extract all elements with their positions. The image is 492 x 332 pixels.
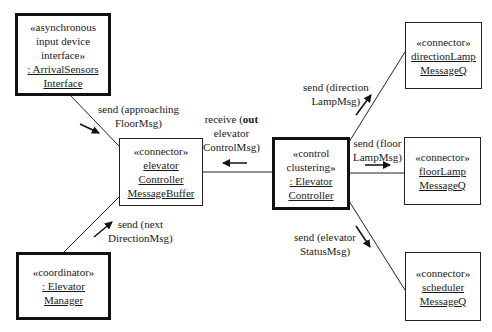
arrow-status	[356, 226, 370, 247]
object-name: Controller	[138, 172, 183, 186]
message-elevator-status: send (elevator StatusMsg)	[294, 230, 356, 258]
object-name: Manager	[44, 293, 83, 307]
object-name: floorLamp	[419, 164, 466, 178]
message-text: send (approaching	[98, 102, 179, 116]
stereotype: «asynchronous	[30, 20, 96, 34]
stereotype: «coordinator»	[33, 265, 95, 279]
stereotype: «connector»	[416, 266, 470, 280]
message-text: ControlMsg)	[203, 140, 260, 154]
message-text: elevator	[203, 126, 260, 140]
message-text: LampMsg)	[353, 150, 402, 164]
message-text: StatusMsg)	[294, 244, 356, 258]
direction-lamp-messageq-object[interactable]: «connector» directionLamp MessageQ	[405, 22, 482, 89]
message-approaching-floor: send (approaching FloorMsg)	[98, 102, 179, 130]
arrow-approaching	[80, 124, 99, 133]
stereotype: clustering»	[287, 160, 336, 174]
object-name: : ArrivalSensors	[27, 62, 98, 76]
message-floor-lamp: send (floor LampMsg)	[353, 136, 402, 164]
object-name: Interface	[43, 76, 82, 90]
stereotype: «connector»	[416, 35, 470, 49]
stereotype: «control	[293, 146, 330, 160]
object-name: MessageQ	[420, 294, 466, 308]
object-name: MessageQ	[420, 63, 466, 77]
message-text: LampMsg)	[303, 94, 369, 108]
message-receive-control: receive (out elevator ControlMsg)	[203, 112, 260, 154]
scheduler-messageq-object[interactable]: «connector» scheduler MessageQ	[405, 252, 481, 321]
object-name: MessageBuffer	[128, 186, 195, 200]
message-text: send (elevator	[294, 230, 356, 244]
floor-lamp-messageq-object[interactable]: «connector» floorLamp MessageQ	[404, 137, 481, 205]
message-text: DirectionMsg)	[108, 231, 173, 245]
message-next-direction: send (next DirectionMsg)	[108, 217, 173, 245]
stereotype: input device	[36, 34, 90, 48]
message-text: FloorMsg)	[98, 116, 179, 130]
elevator-manager-object[interactable]: «coordinator» : Elevator Manager	[16, 252, 111, 320]
object-name: elevator	[143, 158, 178, 172]
stereotype: interface»	[41, 48, 85, 62]
object-name: : Elevator	[289, 174, 332, 188]
stereotype: «connector»	[134, 144, 188, 158]
arrival-sensors-interface-object[interactable]: «asynchronous input device interface» : …	[15, 13, 111, 96]
message-text: send (next	[108, 217, 173, 231]
object-name: : Elevator	[42, 279, 85, 293]
object-name: Controller	[288, 188, 333, 202]
elevator-controller-object[interactable]: «control clustering» : Elevator Controll…	[272, 137, 350, 210]
elevator-controller-message-buffer-object[interactable]: «connector» elevator Controller MessageB…	[119, 138, 203, 206]
message-text: receive (out	[203, 112, 260, 126]
message-direction-lamp: send (direction LampMsg)	[303, 80, 369, 108]
object-name: scheduler	[422, 280, 464, 294]
object-name: directionLamp	[411, 49, 476, 63]
object-name: MessageQ	[419, 178, 465, 192]
message-text: send (direction	[303, 80, 369, 94]
message-text: send (floor	[353, 136, 402, 150]
stereotype: «connector»	[415, 150, 469, 164]
